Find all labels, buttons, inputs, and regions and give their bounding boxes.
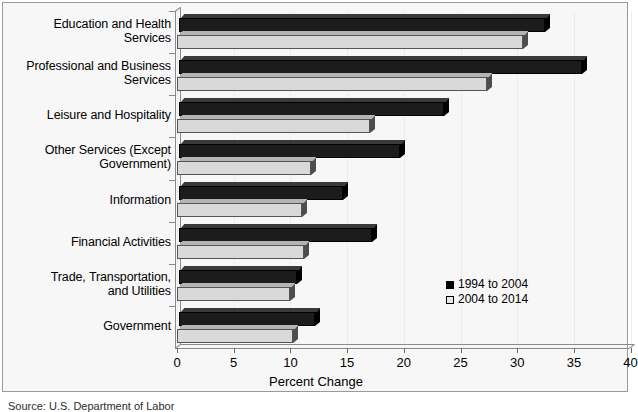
bar-series-2 — [177, 77, 487, 91]
bar-top-face — [181, 56, 587, 60]
category-label: Trade, Transportation, and Utilities — [51, 270, 171, 298]
x-axis-tick — [404, 348, 405, 353]
bar-top-face — [179, 241, 309, 245]
plot-area: Education and Health ServicesProfessiona… — [3, 3, 629, 393]
x-axis-tick-label: 5 — [230, 355, 237, 370]
bar[interactable] — [179, 60, 582, 74]
bar-top-face — [179, 199, 307, 203]
x-axis-tick — [461, 348, 462, 353]
legend-item[interactable]: 2004 to 2014 — [446, 292, 528, 307]
bar[interactable] — [177, 245, 304, 259]
x-axis-tick-label: 40 — [623, 355, 637, 370]
x-axis-back-line — [180, 344, 634, 345]
x-axis-tick-label: 0 — [173, 355, 180, 370]
bar[interactable] — [179, 186, 343, 200]
legend-item[interactable]: 1994 to 2004 — [446, 277, 528, 292]
bar[interactable] — [177, 119, 370, 133]
category-label: Government — [103, 319, 171, 333]
y-axis-tick — [169, 180, 176, 181]
bar-series-2 — [177, 35, 523, 49]
x-axis-tick-label: 10 — [283, 355, 297, 370]
legend-label: 1994 to 2004 — [458, 277, 528, 292]
legend: 1994 to 2004 2004 to 2014 — [446, 277, 528, 307]
legend-swatch-icon — [446, 281, 454, 289]
bar[interactable] — [177, 77, 487, 91]
x-axis-tick — [631, 348, 632, 353]
bar[interactable] — [177, 329, 293, 343]
x-axis-line — [175, 348, 629, 349]
bar-top-face — [179, 73, 492, 77]
bar-top-face — [179, 283, 296, 287]
bar-series-2 — [177, 329, 293, 343]
x-axis-tick-label: 35 — [567, 355, 581, 370]
bar-series-2 — [177, 203, 302, 217]
bar[interactable] — [177, 161, 311, 175]
y-axis-tick — [169, 222, 176, 223]
bar-series-1 — [179, 186, 343, 200]
y-axis-tick — [169, 137, 176, 138]
source-note: Source: U.S. Department of Labor — [8, 400, 174, 412]
category-label: Information — [110, 193, 171, 207]
y-axis-tick — [169, 264, 176, 265]
x-axis-tick-label: 25 — [453, 355, 467, 370]
bar[interactable] — [179, 18, 545, 32]
category-label: Other Services (Except Government) — [45, 143, 171, 171]
x-axis-tick — [574, 348, 575, 353]
bar-top-face — [179, 31, 528, 35]
bar-series-2 — [177, 119, 370, 133]
y-axis-tick — [169, 306, 176, 307]
bar[interactable] — [179, 144, 400, 158]
bar[interactable] — [179, 102, 444, 116]
bar-series-2 — [177, 245, 304, 259]
category-label: Leisure and Hospitality — [47, 108, 171, 122]
legend-swatch-icon — [446, 296, 454, 304]
bar-top-face — [181, 266, 302, 270]
x-axis-tick — [517, 348, 518, 353]
bar-series-2 — [177, 287, 290, 301]
x-axis-tick-label: 15 — [340, 355, 354, 370]
bar-top-face — [181, 308, 320, 312]
bar-series-1 — [179, 18, 545, 32]
bar-top-face — [181, 224, 377, 228]
bar-series-1 — [179, 144, 400, 158]
x-axis-tick — [234, 348, 235, 353]
bar[interactable] — [177, 203, 302, 217]
bar-series-1 — [179, 60, 582, 74]
y-axis-tick — [169, 95, 176, 96]
bar-top-face — [181, 14, 551, 18]
gridline — [631, 11, 632, 348]
y-axis-tick — [169, 53, 176, 54]
bar-series-1 — [179, 102, 444, 116]
x-axis-tick-label: 20 — [397, 355, 411, 370]
category-label: Professional and Business Services — [26, 59, 171, 87]
legend-label: 2004 to 2014 — [458, 292, 528, 307]
chart-frame: Education and Health ServicesProfessiona… — [2, 2, 628, 392]
bar-top-face — [179, 115, 375, 119]
category-label: Financial Activities — [71, 235, 171, 249]
bar[interactable] — [177, 35, 523, 49]
category-label: Education and Health Services — [53, 17, 171, 45]
x-axis-tick — [347, 348, 348, 353]
x-axis-tick — [290, 348, 291, 353]
bar-top-face — [181, 182, 349, 186]
bar[interactable] — [177, 287, 290, 301]
x-axis-tick-label: 30 — [510, 355, 524, 370]
bar-top-face — [181, 140, 405, 144]
bar-top-face — [181, 98, 450, 102]
y-axis-tick — [169, 11, 176, 12]
bar-top-face — [179, 157, 316, 161]
bar-top-face — [179, 325, 298, 329]
x-axis-tick — [177, 348, 178, 353]
bar-series-2 — [177, 161, 311, 175]
x-axis-title: Percent Change — [3, 374, 629, 389]
